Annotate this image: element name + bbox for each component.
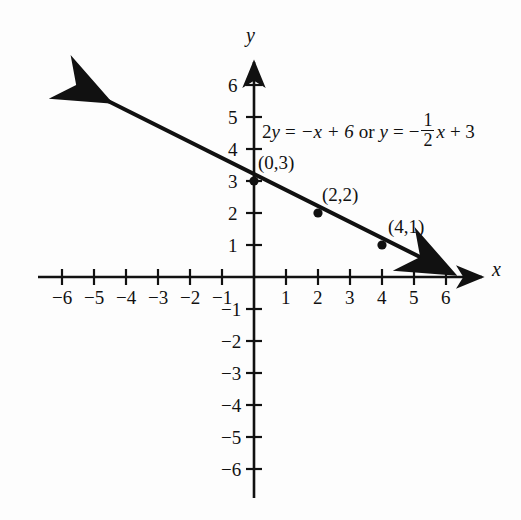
y-tick-label-5: 5 <box>228 108 238 127</box>
equation-rhs-first: −x + 6 <box>301 121 354 143</box>
y-tick-label-3: 3 <box>228 172 238 191</box>
equation-lhs-coefficient: 2 <box>262 121 272 143</box>
equation-lhs-variable: y <box>272 121 280 143</box>
point-label-4-1: (4,1) <box>388 216 424 238</box>
point-label-0-3: (0,3) <box>258 152 294 174</box>
point-label-2-2: (2,2) <box>322 184 358 206</box>
y-tick-label-1: 1 <box>228 236 238 255</box>
x-tick-label-5: 5 <box>409 288 419 307</box>
equation-slope-sign: − <box>409 121 420 143</box>
slope-numerator: 1 <box>421 111 434 130</box>
equation-annotation: 2 y = −x + 6 or y = − 1 2 x + 3 <box>262 112 475 151</box>
x-tick-label-3: 3 <box>345 288 355 307</box>
y-tick-label--5: −5 <box>221 428 241 447</box>
x-tick-label-1: 1 <box>281 288 291 307</box>
equation-equals-second: = <box>393 121 404 143</box>
y-tick-label--1: −1 <box>221 300 241 319</box>
y-tick-label--4: −4 <box>221 396 241 415</box>
equation-intercept-term: + 3 <box>450 121 475 143</box>
linear-graph-figure: x y −6 −5 −4 −3 −2 −1 1 2 3 4 5 6 6 5 4 … <box>0 0 521 520</box>
equation-slope-intercept-variable: y <box>380 121 388 143</box>
x-axis-label: x <box>492 258 501 281</box>
x-tick-label--2: −2 <box>180 288 200 307</box>
x-tick-label--3: −3 <box>148 288 168 307</box>
y-tick-label-6: 6 <box>228 76 238 95</box>
equation-slope-variable: x <box>436 121 444 143</box>
point-4-1 <box>377 240 386 249</box>
x-tick-label-4: 4 <box>377 288 387 307</box>
equation-equals-first: = <box>285 121 296 143</box>
x-tick-label--5: −5 <box>84 288 104 307</box>
point-0-3 <box>249 176 258 185</box>
y-tick-label--6: −6 <box>221 460 241 479</box>
slope-fraction: 1 2 <box>421 111 434 150</box>
y-axis-label: y <box>246 24 255 47</box>
plotted-points <box>249 176 386 249</box>
equation-connector: or <box>359 121 375 143</box>
y-tick-label-2: 2 <box>228 204 238 223</box>
x-tick-label-2: 2 <box>313 288 323 307</box>
y-tick-label-4: 4 <box>228 140 238 159</box>
y-tick-label--3: −3 <box>221 364 241 383</box>
coordinate-plane <box>0 0 521 520</box>
x-tick-label--4: −4 <box>116 288 136 307</box>
point-2-2 <box>313 208 322 217</box>
slope-denominator: 2 <box>421 131 434 150</box>
x-tick-label--6: −6 <box>52 288 72 307</box>
x-tick-label-6: 6 <box>441 288 451 307</box>
y-tick-label--2: −2 <box>221 332 241 351</box>
